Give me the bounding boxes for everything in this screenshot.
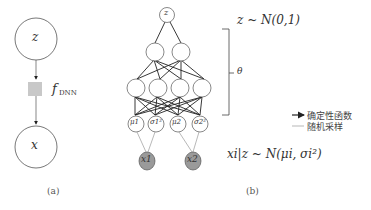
label-x2: x2 [187, 154, 198, 164]
legend-sampling: 随机采样 [307, 120, 343, 133]
likelihood-formula: xi|z ~ N(μi, σi²) [227, 147, 322, 161]
panel-b-network [127, 8, 211, 171]
theta-bracket [222, 29, 229, 115]
label-x1: x1 [141, 154, 152, 164]
label-sigma1: σ1² [150, 118, 162, 126]
caption-a: (a) [47, 186, 59, 196]
label-mu1: μ1 [130, 118, 139, 126]
label-z-b: z [164, 8, 168, 17]
dnn-box [28, 82, 42, 96]
label-x-a: x [31, 138, 38, 152]
diagram-canvas [0, 0, 371, 210]
prior-formula: z ~ N(0,1) [237, 13, 300, 27]
label-mu2: μ2 [172, 118, 181, 126]
label-sigma2: σ2² [194, 118, 206, 126]
label-z-a: z [32, 30, 38, 44]
label-f-subscript: DNN [59, 89, 77, 97]
theta-label: θ [237, 66, 242, 76]
label-f: f [52, 81, 57, 96]
caption-b: (b) [246, 186, 259, 196]
